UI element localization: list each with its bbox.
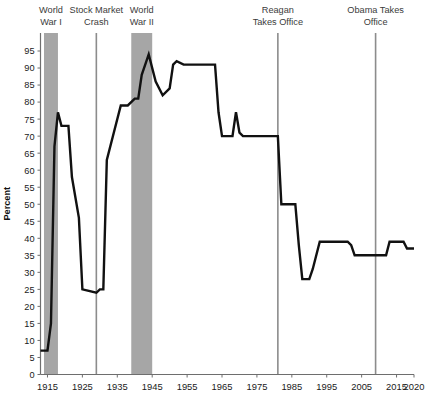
annotation-label-obama-takes-office: Office [364, 17, 388, 27]
annotation-label-reagan-takes-office: Takes Office [253, 17, 303, 27]
y-tick-label: 10 [24, 336, 34, 346]
x-tick-label: 1995 [316, 381, 337, 392]
chart-svg: 05101520253035404550556065707580859095 1… [0, 0, 434, 396]
event-band-world-war-ii [131, 33, 152, 375]
y-tick-label: 90 [24, 63, 34, 73]
annotation-label-world-war-i: War I [40, 17, 62, 27]
x-tick-label: 1925 [72, 381, 93, 392]
x-tick-label: 1985 [281, 381, 302, 392]
y-tick-label: 45 [24, 217, 34, 227]
y-tick-label: 35 [24, 251, 34, 261]
y-tick-label: 20 [24, 302, 34, 312]
y-tick-label: 80 [24, 97, 34, 107]
y-tick-label: 85 [24, 80, 34, 90]
annotation-labels: WorldWar IStock MarketCrashWorldWar IIRe… [39, 5, 404, 27]
y-tick-label: 50 [24, 200, 34, 210]
y-tick-label: 30 [24, 268, 34, 278]
annotation-label-world-war-ii: World [130, 5, 154, 15]
y-tick-label: 40 [24, 234, 34, 244]
annotation-label-stock-market-crash: Crash [84, 17, 109, 27]
y-axis-title: Percent [2, 187, 12, 221]
x-tick-label: 1935 [107, 381, 128, 392]
y-tick-label: 25 [24, 285, 34, 295]
x-tick-label: 2005 [351, 381, 372, 392]
y-tick-label: 65 [24, 149, 34, 159]
y-tick-label: 75 [24, 115, 34, 125]
annotation-label-obama-takes-office: Obama Takes [347, 5, 404, 15]
x-tick-label: 1945 [142, 381, 163, 392]
y-tick-label: 5 [29, 353, 34, 363]
x-tick-labels: 1915192519351945195519651975198519952005… [37, 381, 424, 392]
y-tick-label: 55 [24, 183, 34, 193]
y-tick-labels: 05101520253035404550556065707580859095 [24, 46, 34, 380]
x-tick-label: 1975 [246, 381, 267, 392]
tax-rate-chart: 05101520253035404550556065707580859095 1… [0, 0, 434, 396]
y-axis-title-text: Percent [2, 187, 12, 221]
y-tick-label: 70 [24, 132, 34, 142]
annotation-label-stock-market-crash: Stock Market [70, 5, 124, 15]
event-bands-layer [44, 33, 152, 375]
axes-layer [38, 33, 415, 378]
y-tick-label: 60 [24, 166, 34, 176]
annotation-label-world-war-i: World [39, 5, 63, 15]
annotation-label-world-war-ii: War II [130, 17, 154, 27]
x-tick-label: 1965 [212, 381, 233, 392]
x-tick-label: 2020 [404, 381, 425, 392]
y-tick-label: 15 [24, 319, 34, 329]
x-tick-label: 1955 [177, 381, 198, 392]
y-tick-label: 0 [29, 370, 34, 380]
x-tick-label: 1915 [37, 381, 58, 392]
annotation-label-reagan-takes-office: Reagan [262, 5, 294, 15]
y-tick-label: 95 [24, 46, 34, 56]
